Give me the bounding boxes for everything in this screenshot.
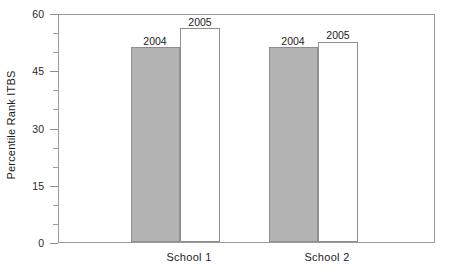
bar-school2-2004[interactable]	[269, 47, 318, 242]
x-category-label-school-2: School 2	[304, 251, 349, 263]
chart-screenshot: Percentile Rank ITBS 60 45 30 15 0 2004 …	[0, 0, 453, 280]
y-tick-label-45: 45	[4, 66, 44, 77]
y-tick-label-0: 0	[4, 238, 44, 249]
y-tick-major-45	[50, 71, 58, 72]
bar-label-school2-2004: 2004	[281, 36, 304, 47]
bar-label-school2-2005: 2005	[326, 30, 349, 41]
bar-school2-2005[interactable]	[318, 42, 358, 242]
y-tick-label-15: 15	[4, 181, 44, 192]
bar-school1-2004[interactable]	[131, 47, 180, 242]
bar-label-school1-2004: 2004	[143, 36, 166, 47]
y-tick-label-30: 30	[4, 123, 44, 134]
bar-school1-2005[interactable]	[180, 28, 220, 242]
y-tick-major-30	[50, 129, 58, 130]
x-category-label-school-1: School 1	[166, 251, 211, 263]
y-tick-major-0	[50, 243, 58, 244]
y-tick-major-15	[50, 186, 58, 187]
y-tick-label-60: 60	[4, 9, 44, 20]
plot-area	[58, 14, 435, 243]
y-tick-major-60	[50, 14, 58, 15]
bar-label-school1-2005: 2005	[188, 17, 211, 28]
